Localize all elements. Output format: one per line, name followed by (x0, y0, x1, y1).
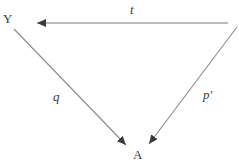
node-label-A: A (133, 148, 142, 161)
diagram-canvas: Y A t q p′ (0, 0, 239, 165)
edge-label-t: t (130, 3, 134, 16)
edge-label-q: q (53, 90, 60, 103)
node-label-Y: Y (3, 12, 12, 25)
edge-p-prime (149, 27, 237, 144)
diagram-svg (0, 0, 239, 165)
edge-label-p-prime: p′ (203, 88, 212, 101)
edge-q-line (14, 29, 126, 145)
edge-p-prime-line (149, 27, 237, 144)
edge-q (14, 29, 126, 145)
